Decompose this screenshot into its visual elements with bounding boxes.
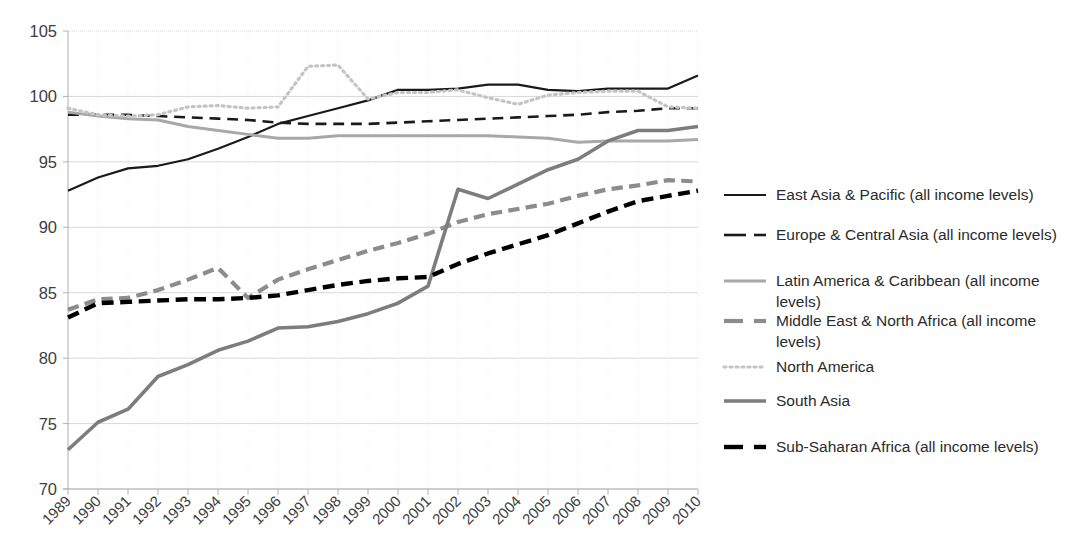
y-tick-label: 90 <box>39 218 57 236</box>
legend-item-6[interactable]: Sub-Saharan Africa (all income levels) <box>724 438 1039 455</box>
x-tick-label: 1998 <box>309 492 345 528</box>
x-tick-label: 1994 <box>189 492 225 528</box>
data-series-layer <box>68 65 698 450</box>
x-tick-label: 1990 <box>69 492 105 528</box>
y-tick-label: 95 <box>39 153 57 171</box>
y-tick-label: 75 <box>39 415 57 433</box>
legend-item-label: Middle East & North Africa (all income <box>776 312 1036 329</box>
y-tick-label: 80 <box>39 349 57 367</box>
x-tick-label: 2010 <box>669 492 705 528</box>
legend-item-4[interactable]: North America <box>724 358 875 375</box>
x-tick-label: 2007 <box>579 492 615 528</box>
x-tick-label: 1999 <box>339 492 375 528</box>
x-tick-label: 1997 <box>279 492 315 528</box>
legend-item-label: Sub-Saharan Africa (all income levels) <box>776 438 1039 455</box>
x-tick-label: 1996 <box>249 492 285 528</box>
legend-item-label: Latin America & Caribbean (all income <box>776 272 1040 289</box>
x-tick-label: 2002 <box>429 492 465 528</box>
x-tick-label: 2009 <box>639 492 675 528</box>
x-tick-label: 2008 <box>609 492 645 528</box>
legend-item-label: South Asia <box>776 392 850 409</box>
legend-item-label: levels) <box>776 293 821 310</box>
chart-figure: 105100959085807570 198919901991199219931… <box>0 0 1071 558</box>
legend-item-3[interactable]: Middle East & North Africa (all incomele… <box>724 312 1036 350</box>
x-tick-label: 1992 <box>129 492 165 528</box>
legend-item-5[interactable]: South Asia <box>724 392 850 409</box>
y-tick-label: 70 <box>39 480 57 498</box>
vertical-gridlines <box>68 31 698 489</box>
x-tick-label: 1995 <box>219 492 255 528</box>
y-axis-tick-labels: 105100959085807570 <box>29 22 57 498</box>
y-tick-label: 85 <box>39 284 57 302</box>
legend-item-1[interactable]: Europe & Central Asia (all income levels… <box>724 226 1057 243</box>
x-tick-label: 2004 <box>489 492 525 528</box>
legend-item-label: Europe & Central Asia (all income levels… <box>776 226 1057 243</box>
y-tick-label: 105 <box>29 22 57 40</box>
x-tick-label: 2001 <box>399 492 435 528</box>
x-tick-label: 2006 <box>549 492 585 528</box>
series-line-3 <box>68 180 698 310</box>
x-tick-label: 1993 <box>159 492 195 528</box>
legend-item-2[interactable]: Latin America & Caribbean (all incomelev… <box>724 272 1040 310</box>
legend-item-0[interactable]: East Asia & Pacific (all income levels) <box>724 186 1034 203</box>
legend-item-label: North America <box>776 358 875 375</box>
line-chart-canvas: 105100959085807570 198919901991199219931… <box>0 0 1071 558</box>
chart-legend: East Asia & Pacific (all income levels)E… <box>724 186 1057 455</box>
y-tick-label: 100 <box>29 87 57 105</box>
x-tick-label: 1991 <box>99 492 135 528</box>
x-tick-label: 2005 <box>519 492 555 528</box>
gridlines <box>68 31 698 489</box>
series-line-6 <box>68 191 698 318</box>
series-line-4 <box>68 65 698 116</box>
x-tick-label: 2000 <box>369 492 405 528</box>
x-axis-tick-labels: 1989199019911992199319941995199619971998… <box>39 492 705 528</box>
x-tick-label: 2003 <box>459 492 495 528</box>
legend-item-label: levels) <box>776 333 821 350</box>
legend-item-label: East Asia & Pacific (all income levels) <box>776 186 1034 203</box>
